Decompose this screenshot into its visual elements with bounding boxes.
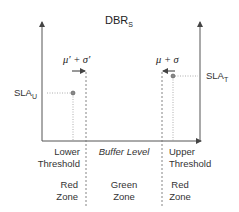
right-red-zone-line2: Zone [169,191,191,202]
left-red-zone-line1: Red [61,179,78,190]
green-zone-line2: Zone [113,191,135,202]
lower-threshold-label-line1: Lower [54,146,80,157]
sla-u-point-icon [71,91,75,95]
right-red-zone-line1: Red [171,179,188,190]
dbr-buffer-diagram: DBRS μ' + σ' μ + σ SLAU SLAT Lower Thres… [0,0,239,212]
upper-threshold-label-line1: Upper [169,146,195,157]
sla-t-label: SLAT [206,70,229,83]
lower-stat-label: μ' + σ' [62,54,91,65]
upper-stat-label: μ + σ [155,54,180,65]
sla-t-point-icon [171,74,175,78]
left-red-zone-line2: Zone [56,191,78,202]
sla-u-label: SLAU [14,87,37,100]
lower-threshold-label-line2: Threshold [38,158,80,169]
diagram-title: DBRS [105,14,133,28]
upper-threshold-label-line2: Threshold [169,158,211,169]
x-axis-label: Buffer Level [99,146,151,157]
green-zone-line1: Green [111,179,137,190]
